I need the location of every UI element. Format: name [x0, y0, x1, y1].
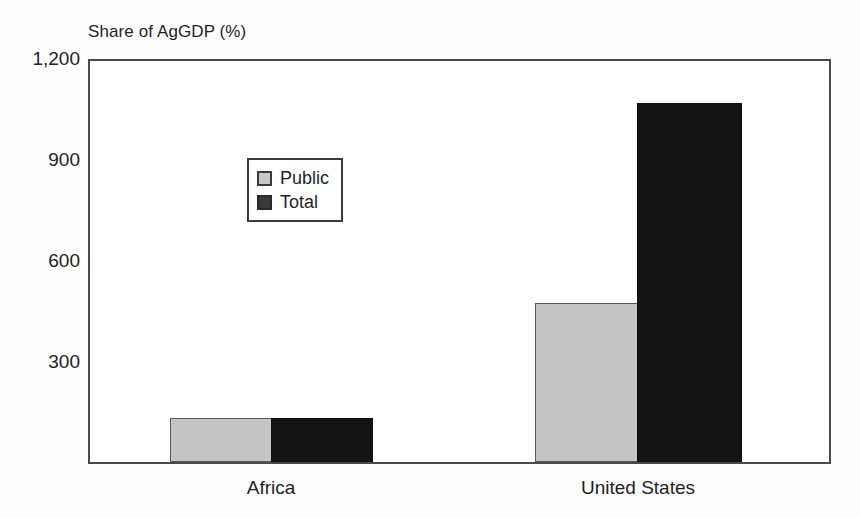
y-tick-label-900: 900	[48, 149, 80, 171]
legend-swatch-total-icon	[257, 195, 272, 210]
y-tick-label-1200: 1,200	[32, 48, 80, 70]
plot-area: Public Total	[88, 59, 831, 464]
x-axis-label-united-states: United States	[581, 477, 695, 499]
bar-united-states-public	[535, 303, 638, 462]
bar-africa-total	[271, 418, 373, 462]
x-axis-label-africa: Africa	[247, 477, 296, 499]
y-tick-label-600: 600	[48, 250, 80, 272]
bar-united-states-total	[637, 103, 742, 462]
page-title: Share of AgGDP (%)	[88, 22, 246, 42]
legend-label-public: Public	[280, 169, 329, 187]
y-axis-labels: 1,200 900 600 300	[0, 0, 80, 518]
legend: Public Total	[247, 158, 343, 222]
legend-swatch-public-icon	[257, 171, 272, 186]
legend-item-total: Total	[257, 190, 329, 214]
legend-item-public: Public	[257, 166, 329, 190]
chart-page: Share of AgGDP (%) 1,200 900 600 300 Pub…	[0, 0, 860, 518]
y-tick-label-300: 300	[48, 351, 80, 373]
bar-africa-public	[170, 418, 272, 462]
legend-label-total: Total	[280, 193, 318, 211]
